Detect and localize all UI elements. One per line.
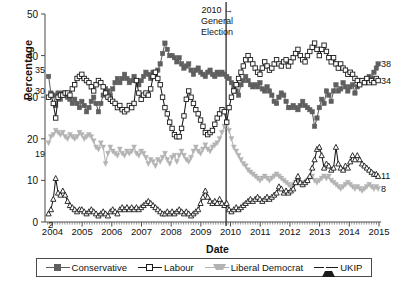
end-value-liberal-democrat: 8 [381,184,386,194]
legend-item-liberal-democrat[interactable]: Liberal Democrat [205,262,303,273]
legend-marker-filled-square-icon [46,263,70,272]
start-value-conservative: 35 [35,65,45,75]
legend-item-conservative[interactable]: Conservative [46,262,127,273]
start-value-ukip: 2 [48,220,53,230]
legend-marker-open-triangle-up-icon [314,263,338,272]
legend-label: Labour [164,262,194,273]
legend-label: Liberal Democrat [231,262,303,273]
legend-item-labour[interactable]: Labour [138,262,194,273]
end-value-labour: 34 [381,76,391,86]
end-value-conservative: 38 [381,59,391,69]
legend-marker-open-square-icon [138,263,162,272]
legend-marker-filled-triangle-down-icon [205,263,229,272]
end-value-ukip: 11 [381,171,390,181]
chart-legend: ConservativeLabourLiberal DemocratUKIP [36,258,372,277]
start-value-labour: 30 [35,86,45,96]
series-value-labels: 38341183530192 [0,0,407,283]
legend-label: UKIP [340,262,362,273]
poll-trend-chart-figure: Percentage 01020304050 20042005200620072… [0,0,407,283]
legend-item-ukip[interactable]: UKIP [314,262,362,273]
start-value-liberal-democrat: 19 [35,149,45,159]
legend-label: Conservative [72,262,127,273]
